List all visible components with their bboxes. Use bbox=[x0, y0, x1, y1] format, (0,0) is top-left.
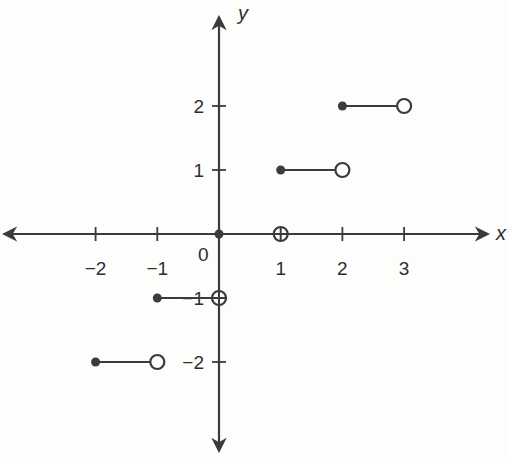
x-tick-label: 3 bbox=[399, 258, 410, 279]
closed-endpoint bbox=[276, 166, 285, 175]
x-tick-label: −2 bbox=[85, 258, 107, 279]
open-endpoint bbox=[397, 99, 411, 113]
open-endpoint bbox=[150, 355, 164, 369]
x-tick-label: 2 bbox=[337, 258, 348, 279]
closed-endpoint bbox=[338, 102, 347, 111]
x-axis-label: x bbox=[495, 222, 507, 244]
step-function-chart: −2−1123−2−112 x y 0 bbox=[0, 0, 509, 462]
closed-endpoint bbox=[91, 358, 100, 367]
origin-label: 0 bbox=[198, 244, 209, 265]
x-tick-label: 1 bbox=[275, 258, 286, 279]
step-segment bbox=[338, 99, 411, 113]
step-segment bbox=[91, 355, 164, 369]
y-tick-label: 1 bbox=[193, 160, 204, 181]
y-axis-label: y bbox=[236, 2, 249, 24]
open-endpoint bbox=[335, 163, 349, 177]
y-tick-label: −2 bbox=[182, 352, 204, 373]
closed-endpoint bbox=[215, 230, 224, 239]
closed-endpoint bbox=[153, 294, 162, 303]
x-tick-label: −1 bbox=[146, 258, 168, 279]
step-segment bbox=[276, 163, 349, 177]
y-tick-label: 2 bbox=[193, 96, 204, 117]
